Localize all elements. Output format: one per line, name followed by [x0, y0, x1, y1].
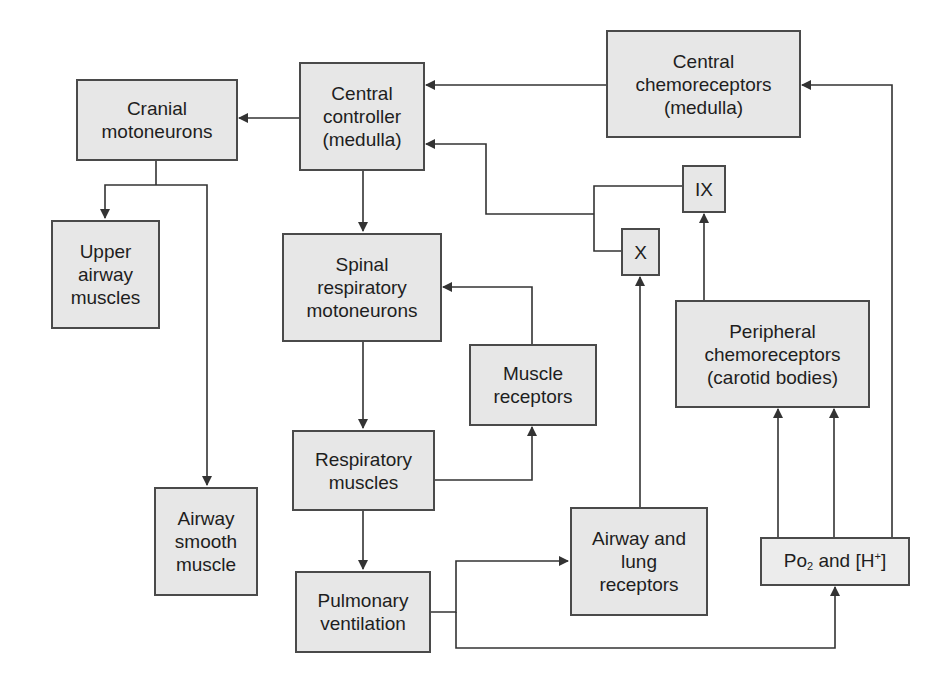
po2-prefix: Po: [784, 550, 807, 571]
node-label: Peripheral chemoreceptors (carotid bodie…: [704, 320, 840, 389]
edge-nerves-to-controller: [426, 144, 594, 214]
node-label: Airway smooth muscle: [175, 507, 237, 576]
node-peripheral-chemoreceptors: Peripheral chemoreceptors (carotid bodie…: [675, 300, 870, 408]
node-label: Spinal respiratory motoneurons: [307, 253, 418, 322]
node-label: Respiratory muscles: [315, 448, 412, 494]
node-cranial-motoneurons: Cranial motoneurons: [76, 79, 238, 161]
node-label: Pulmonary ventilation: [318, 589, 409, 635]
node-label: IX: [695, 178, 713, 201]
node-central-chemoreceptors: Central chemoreceptors (medulla): [606, 30, 801, 138]
node-label: Cranial motoneurons: [102, 97, 213, 143]
po2-suffix: ]: [881, 550, 886, 571]
edge-muscle-receptors-to-spinal: [443, 287, 532, 344]
node-label: X: [634, 241, 647, 264]
node-po2-and-h: Po2 and [H+]: [760, 537, 910, 586]
node-spinal-respiratory-motoneurons: Spinal respiratory motoneurons: [282, 233, 442, 342]
node-label: Muscle receptors: [493, 362, 572, 408]
node-nerve-ix: IX: [682, 165, 726, 213]
edge-cranial-to-upper-airway: [105, 185, 156, 218]
node-pulmonary-ventilation: Pulmonary ventilation: [295, 571, 431, 653]
node-respiratory-muscles: Respiratory muscles: [292, 430, 435, 511]
edge-cranial-to-airway-smooth: [156, 185, 207, 485]
edge-respiratory-to-muscle-receptors: [434, 427, 532, 480]
node-label: Po2 and [H+]: [784, 545, 886, 578]
po2-mid: and [H: [813, 550, 874, 571]
node-upper-airway-muscles: Upper airway muscles: [51, 220, 160, 329]
node-label: Airway and lung receptors: [592, 527, 686, 596]
node-label: Central controller (medulla): [322, 82, 401, 151]
node-muscle-receptors: Muscle receptors: [469, 344, 597, 426]
node-label: Central chemoreceptors (medulla): [635, 50, 771, 119]
node-nerve-x: X: [621, 228, 660, 276]
node-central-controller: Central controller (medulla): [299, 62, 425, 171]
node-airway-smooth-muscle: Airway smooth muscle: [154, 487, 258, 596]
edge-pulmonary-to-airway-lung: [430, 561, 568, 612]
node-airway-lung-receptors: Airway and lung receptors: [570, 507, 708, 616]
node-label: Upper airway muscles: [71, 240, 141, 309]
